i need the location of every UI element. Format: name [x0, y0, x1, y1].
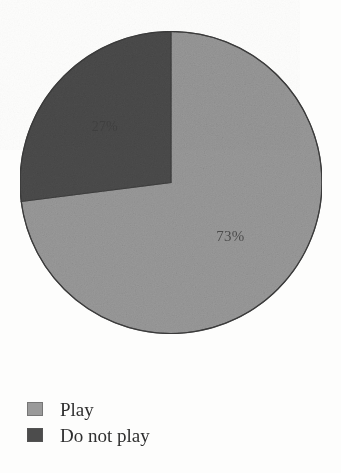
pie-chart-figure: 73% 27% Play Do not play [0, 0, 341, 473]
legend-label-do-not-play: Do not play [60, 426, 150, 445]
clipped-caption [22, 464, 322, 471]
legend-label-play: Play [60, 400, 94, 419]
legend-swatch-play [27, 402, 43, 416]
legend-swatch-do-not-play [27, 428, 43, 442]
pie-slice-do-not-play [20, 32, 171, 202]
pie-chart: 73% 27% [20, 31, 322, 334]
legend-item-do-not-play: Do not play [27, 422, 287, 448]
chart-legend: Play Do not play [27, 396, 287, 448]
legend-item-play: Play [27, 396, 287, 422]
slice-label-play: 73% [216, 228, 244, 245]
chart-plot-area: 73% 27% [0, 0, 341, 360]
pie-svg [20, 31, 322, 334]
slice-label-do-not-play: 27% [92, 119, 118, 135]
